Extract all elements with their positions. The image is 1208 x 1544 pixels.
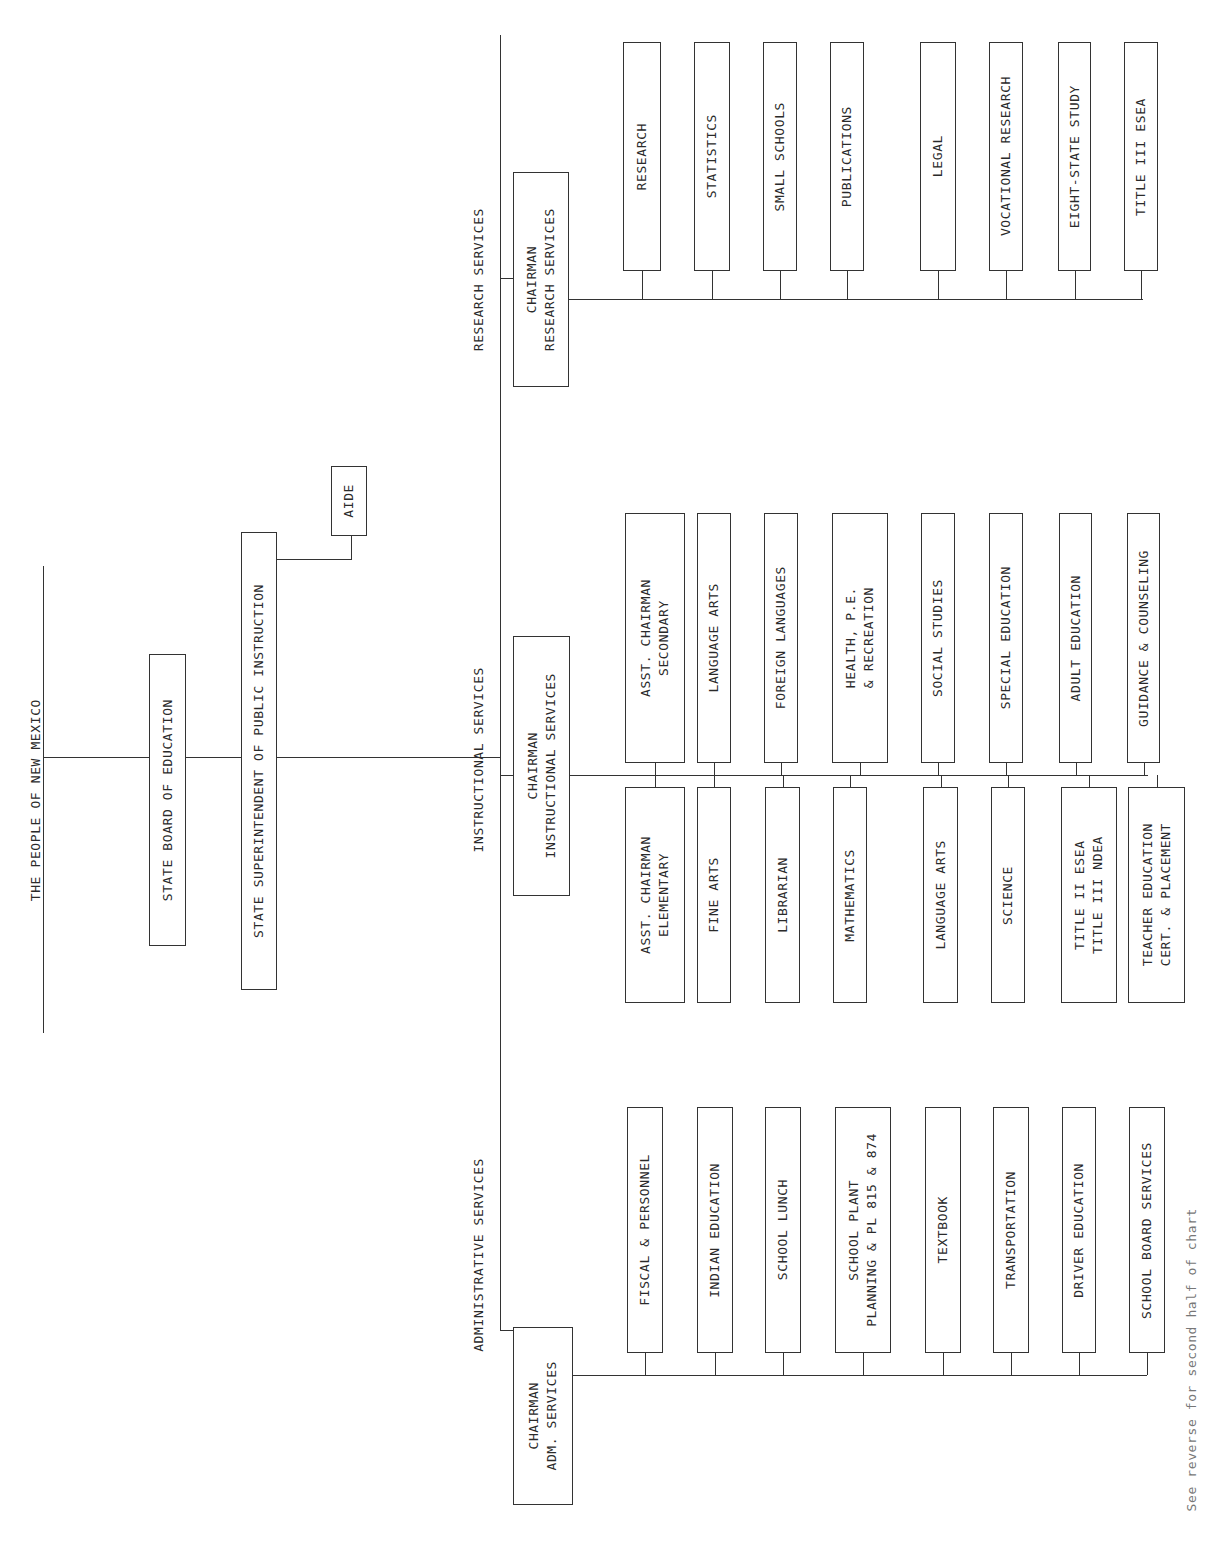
instructional-lower-unit-box-connector: [1008, 775, 1009, 787]
administrative-unit-box-connector: [1011, 1353, 1012, 1375]
instructional-upper-unit-box-connector: [1076, 763, 1077, 775]
research-unit-box: SMALL SCHOOLS: [763, 42, 797, 271]
research-unit-box-label: RESEARCH: [633, 123, 651, 190]
instructional-upper-unit-box-label: LANGUAGE ARTS: [705, 583, 723, 693]
instructional-lower-unit-box-connector: [655, 775, 656, 787]
administrative-unit-box-label: TRANSPORTATION: [1002, 1171, 1020, 1289]
research-section-text: RESEARCH SERVICES: [470, 208, 488, 351]
instructional-lower-unit-box-label: ASST. CHAIRMAN ELEMENTARY: [637, 836, 673, 954]
administrative-chairman-box: CHAIRMAN ADM. SERVICES: [513, 1327, 573, 1505]
research-chair-stub: [500, 278, 513, 279]
instructional-upper-unit-box-connector: [655, 763, 656, 775]
research-unit-box: PUBLICATIONS: [830, 42, 864, 271]
state-board-label: STATE BOARD OF EDUCATION: [159, 699, 177, 901]
research-unit-box-connector: [1075, 271, 1076, 299]
research-unit-box-label: SMALL SCHOOLS: [771, 102, 789, 212]
research-unit-box: VOCATIONAL RESEARCH: [989, 42, 1023, 271]
instructional-upper-unit-box-label: SOCIAL STUDIES: [929, 579, 947, 697]
instructional-upper-unit-box-connector: [938, 763, 939, 775]
research-unit-box: STATISTICS: [694, 42, 730, 271]
research-unit-box: EIGHT-STATE STUDY: [1058, 42, 1091, 271]
aide-label: AIDE: [340, 484, 358, 518]
administrative-unit-box-connector: [783, 1353, 784, 1375]
administrative-chairman-label: CHAIRMAN ADM. SERVICES: [525, 1361, 561, 1471]
administrative-unit-box-connector: [1147, 1353, 1148, 1375]
instructional-lower-unit-box: SCIENCE: [991, 787, 1025, 1003]
instructional-lower-unit-box-label: SCIENCE: [999, 866, 1017, 925]
administrative-unit-box: FISCAL & PERSONNEL: [627, 1107, 663, 1353]
instructional-chairman-box: CHAIRMAN INSTRUCTIONAL SERVICES: [513, 636, 570, 896]
administrative-unit-box-label: SCHOOL PLANT PLANNING & PL 815 & 874: [845, 1133, 881, 1327]
administrative-section-label: ADMINISTRATIVE SERVICES: [468, 1120, 490, 1390]
research-chairman-label: CHAIRMAN RESEARCH SERVICES: [523, 208, 559, 351]
title-underline: [43, 566, 44, 1033]
administrative-unit-box: SCHOOL PLANT PLANNING & PL 815 & 874: [835, 1107, 891, 1353]
administrative-unit-box-connector: [943, 1353, 944, 1375]
research-unit-box-connector: [712, 271, 713, 299]
administrative-unit-box-label: INDIAN EDUCATION: [706, 1163, 724, 1298]
instructional-chairman-label: CHAIRMAN INSTRUCTIONAL SERVICES: [524, 673, 560, 858]
footnote: See reverse for second half of chart: [1180, 1180, 1204, 1540]
administrative-unit-box: TRANSPORTATION: [993, 1107, 1029, 1353]
instructional-lower-unit-box-connector: [850, 775, 851, 787]
administrative-chair-stub: [500, 1330, 513, 1331]
aide-connector-v: [351, 535, 352, 560]
administrative-unit-box-connector: [645, 1353, 646, 1375]
instructional-upper-unit-box-label: FOREIGN LANGUAGES: [772, 566, 790, 709]
instructional-lower-unit-box: LIBRARIAN: [765, 787, 800, 1003]
instructional-upper-unit-box: ADULT EDUCATION: [1059, 513, 1092, 763]
instructional-lower-unit-box-label: MATHEMATICS: [841, 849, 859, 942]
instructional-lower-unit-box: TEACHER EDUCATION CERT. & PLACEMENT: [1128, 787, 1185, 1003]
administrative-unit-box-label: FISCAL & PERSONNEL: [636, 1154, 654, 1306]
instructional-lower-unit-box-label: FINE ARTS: [705, 857, 723, 933]
instructional-upper-unit-box-connector: [860, 763, 861, 775]
instructional-lower-unit-box-label: TITLE II ESEA TITLE III NDEA: [1071, 836, 1107, 954]
research-chairman-box: CHAIRMAN RESEARCH SERVICES: [513, 172, 569, 387]
instructional-lower-unit-box: MATHEMATICS: [833, 787, 867, 1003]
research-unit-box-connector: [1006, 271, 1007, 299]
instructional-lower-unit-box-connector: [1157, 775, 1158, 787]
administrative-unit-box-connector: [863, 1353, 864, 1375]
administrative-unit-box: SCHOOL BOARD SERVICES: [1129, 1107, 1165, 1353]
footnote-text: See reverse for second half of chart: [1183, 1208, 1201, 1511]
instructional-upper-unit-box-connector: [1144, 763, 1145, 775]
research-unit-box: TITLE III ESEA: [1124, 42, 1158, 271]
administrative-unit-box-label: SCHOOL LUNCH: [774, 1179, 792, 1280]
administrative-unit-box-connector: [715, 1353, 716, 1375]
administrative-unit-box: SCHOOL LUNCH: [765, 1107, 801, 1353]
instructional-upper-unit-box: FOREIGN LANGUAGES: [764, 513, 798, 763]
instructional-upper-unit-box-connector: [714, 763, 715, 775]
instructional-lower-unit-box-label: TEACHER EDUCATION CERT. & PLACEMENT: [1139, 823, 1175, 966]
instructional-upper-unit-box-label: ASST. CHAIRMAN SECONDARY: [637, 579, 673, 697]
research-unit-box-label: VOCATIONAL RESEARCH: [997, 76, 1015, 236]
instructional-upper-unit-box-label: ADULT EDUCATION: [1067, 575, 1085, 701]
research-unit-box-label: LEGAL: [929, 135, 947, 177]
instructional-upper-unit-box: LANGUAGE ARTS: [697, 513, 731, 763]
instructional-upper-unit-box: SPECIAL EDUCATION: [989, 513, 1023, 763]
instructional-chair-stub: [500, 775, 513, 776]
instructional-lower-unit-box: FINE ARTS: [697, 787, 731, 1003]
instructional-lower-unit-box-label: LANGUAGE ARTS: [932, 840, 950, 950]
research-unit-box: RESEARCH: [623, 42, 661, 271]
instructional-upper-unit-box-connector: [1006, 763, 1007, 775]
instructional-upper-unit-box-connector: [781, 763, 782, 775]
research-unit-box-connector: [780, 271, 781, 299]
instructional-lower-unit-box-connector: [714, 775, 715, 787]
aide-connector-h: [277, 559, 352, 560]
administrative-unit-box-label: TEXTBOOK: [934, 1196, 952, 1263]
research-unit-box-label: TITLE III ESEA: [1132, 98, 1150, 216]
instructional-upper-unit-box-label: HEALTH, P.E. & RECREATION: [842, 587, 878, 688]
instructional-upper-unit-box: ASST. CHAIRMAN SECONDARY: [625, 513, 685, 763]
instructional-lower-unit-box-connector: [783, 775, 784, 787]
administrative-unit-box-label: DRIVER EDUCATION: [1070, 1163, 1088, 1298]
state-board-box: STATE BOARD OF EDUCATION: [149, 654, 186, 946]
instructional-upper-unit-box: GUIDANCE & COUNSELING: [1127, 513, 1160, 763]
research-bus: [569, 299, 1143, 300]
research-unit-box-label: EIGHT-STATE STUDY: [1066, 85, 1084, 228]
instructional-upper-unit-box: SOCIAL STUDIES: [921, 513, 955, 763]
research-section-label: RESEARCH SERVICES: [468, 170, 490, 390]
research-unit-box-connector: [1141, 271, 1142, 299]
instructional-lower-unit-box: TITLE II ESEA TITLE III NDEA: [1061, 787, 1117, 1003]
administrative-unit-box: DRIVER EDUCATION: [1062, 1107, 1096, 1353]
administrative-section-text: ADMINISTRATIVE SERVICES: [470, 1158, 488, 1352]
